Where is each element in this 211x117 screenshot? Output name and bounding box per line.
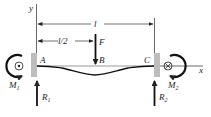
beam-deflected	[37, 66, 154, 75]
left-wall	[31, 53, 37, 77]
point-b-label: B	[99, 55, 105, 65]
moment-m2: M2	[164, 55, 186, 91]
force-label: F	[98, 37, 105, 47]
right-wall	[154, 53, 160, 77]
half-span-label: l/2	[58, 36, 68, 46]
reaction-r2-label: R2	[158, 92, 168, 103]
beam-diagram: y l l/2 F x A B C M1 M	[0, 0, 211, 117]
dimension-full-span: l	[38, 18, 153, 29]
moment-m1: M1	[6, 55, 23, 91]
point-c-label: C	[144, 55, 151, 65]
reaction-r1-label: R1	[41, 92, 51, 103]
moment-m1-label: M1	[8, 80, 20, 91]
x-axis-label: x	[198, 65, 203, 75]
moment-m2-label: M2	[167, 80, 179, 91]
point-a-label: A	[39, 55, 46, 65]
y-axis-label: y	[28, 3, 33, 13]
dimension-half-span: l/2	[38, 36, 93, 46]
